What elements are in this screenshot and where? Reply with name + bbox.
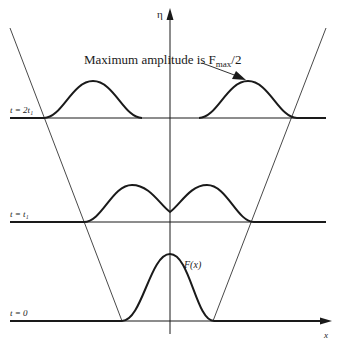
- wave-diagram: η t = 2t₁ t = t₁ x t = 0 F(x) Maximum am…: [0, 0, 337, 346]
- amplitude-annotation: Maximum amplitude is Fmax/2: [84, 52, 241, 69]
- eta-axis-arrow-icon: [167, 8, 174, 20]
- left-characteristic-line: [10, 28, 122, 321]
- eta-axis-label: η: [157, 8, 163, 20]
- time-label-t-t1: t = t₁: [10, 209, 29, 219]
- annotation-subscript: max: [216, 59, 232, 69]
- x-axis-label: x: [323, 330, 328, 340]
- initial-profile-F: [10, 254, 322, 321]
- wave-right-t-2t1: [199, 81, 326, 118]
- annotation-arrow-icon: [232, 71, 246, 80]
- annotation-prefix: Maximum amplitude is F: [84, 52, 216, 67]
- curve-label-F: F(x): [183, 259, 202, 271]
- time-label-t-2t1: t = 2t₁: [10, 105, 33, 115]
- wave-t-t1: [10, 185, 326, 222]
- time-label-t-0: t = 0: [10, 308, 28, 318]
- right-characteristic-line: [213, 28, 326, 321]
- annotation-suffix: /2: [231, 52, 241, 67]
